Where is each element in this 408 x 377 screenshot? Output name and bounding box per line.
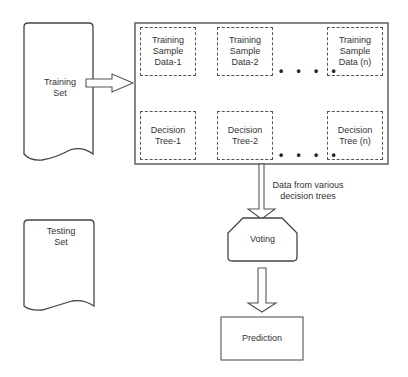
trees-ellipsis: • • • • [279, 148, 341, 162]
voting-label: Voting [228, 234, 297, 245]
sample-box-1: Training Sample Data-1 [140, 27, 196, 76]
testing-set-label: Testing Set [38, 226, 84, 248]
arrow-down-icon [248, 268, 276, 312]
tree-box-2: Decision Tree-2 [217, 111, 273, 160]
tree-box-1: Decision Tree-1 [140, 111, 196, 160]
sample-box-2: Training Sample Data-2 [217, 27, 273, 76]
samples-ellipsis: • • • • [279, 64, 341, 78]
prediction-label: Prediction [221, 333, 303, 344]
training-set-label: Training Set [40, 77, 80, 99]
edge-label: Data from various decision trees [268, 180, 348, 202]
